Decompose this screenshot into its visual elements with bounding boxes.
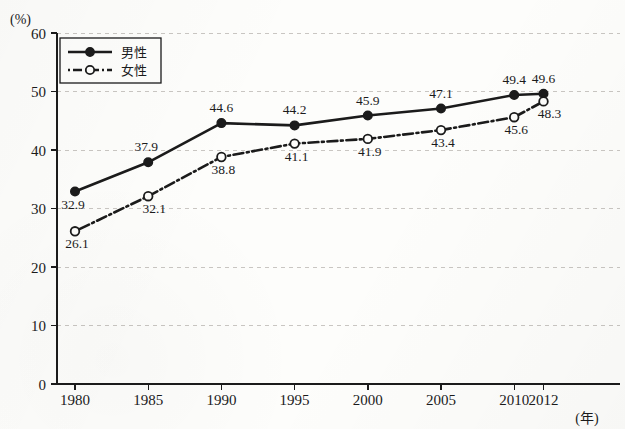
value-label-female-2010: 45.6 [504, 122, 528, 137]
value-label-male-1985: 37.9 [134, 139, 158, 154]
x-tick-label-1995: 1995 [280, 392, 310, 408]
y-tick-label-20: 20 [31, 260, 46, 276]
value-label-female-2005: 43.4 [431, 135, 455, 150]
data-value-labels: 32.937.944.644.245.947.149.449.626.132.1… [61, 71, 561, 252]
chart-canvas: 0102030405060 19801985199019952000200520… [0, 0, 625, 429]
data-point-male-1990 [217, 119, 226, 128]
data-point-male-2005 [437, 104, 446, 113]
x-tick-label-2010: 2010 [499, 392, 529, 408]
value-label-female-1985: 32.1 [142, 201, 166, 216]
value-label-female-2012: 48.3 [538, 106, 562, 121]
x-axis-unit-label: (年) [575, 411, 599, 427]
data-point-female-2000 [364, 135, 373, 144]
legend-label-female: 女性 [121, 63, 147, 78]
data-point-female-2010 [510, 113, 519, 122]
y-tick-label-10: 10 [31, 318, 46, 334]
x-tick-label-1990: 1990 [206, 392, 236, 408]
value-label-female-1990: 38.8 [212, 162, 236, 177]
y-tick-label-0: 0 [39, 377, 47, 393]
value-label-female-1980: 26.1 [65, 236, 89, 251]
y-axis-unit-label: (%) [10, 12, 31, 28]
value-label-female-2000: 41.9 [358, 144, 382, 159]
value-label-male-2005: 47.1 [429, 86, 453, 101]
x-tick-label-1980: 1980 [60, 392, 90, 408]
data-point-female-1990 [217, 153, 226, 162]
data-point-female-1980 [71, 227, 80, 236]
value-label-female-1995: 41.1 [285, 149, 309, 164]
value-label-male-2012: 49.6 [532, 71, 556, 86]
value-label-male-1980: 32.9 [61, 197, 85, 212]
legend-swatch-marker-male [86, 48, 94, 56]
y-tick-label-30: 30 [31, 201, 46, 217]
data-point-female-2012 [539, 97, 548, 106]
value-label-male-1995: 44.2 [283, 102, 307, 117]
data-point-male-2010 [510, 91, 519, 100]
y-tick-label-50: 50 [31, 84, 46, 100]
value-label-male-1990: 44.6 [210, 100, 234, 115]
y-axis-tick-labels: 0102030405060 [31, 26, 46, 393]
value-label-male-2010: 49.4 [502, 72, 526, 87]
chart-legend: 男性 女性 [60, 38, 161, 83]
x-tick-label-2005: 2005 [426, 392, 456, 408]
data-point-female-1995 [290, 139, 299, 148]
data-point-male-1980 [71, 187, 80, 196]
x-axis-tick-labels: 19801985199019952000200520102012 [60, 392, 558, 408]
line-chart-figure: 0102030405060 19801985199019952000200520… [0, 0, 625, 429]
data-point-female-1985 [144, 192, 153, 201]
value-label-male-2000: 45.9 [356, 93, 380, 108]
legend-swatch-marker-female [86, 66, 94, 74]
y-tick-label-40: 40 [31, 143, 46, 159]
data-point-male-2000 [364, 111, 373, 120]
data-point-male-1995 [290, 121, 299, 130]
x-axis-ticks [75, 384, 543, 390]
x-tick-label-2000: 2000 [353, 392, 383, 408]
data-point-male-1985 [144, 158, 153, 167]
x-tick-label-2012: 2012 [528, 392, 558, 408]
legend-label-male: 男性 [121, 45, 147, 60]
y-tick-label-60: 60 [31, 26, 46, 42]
x-tick-label-1985: 1985 [133, 392, 163, 408]
data-point-female-2005 [437, 126, 446, 135]
y-axis-ticks [51, 33, 57, 384]
